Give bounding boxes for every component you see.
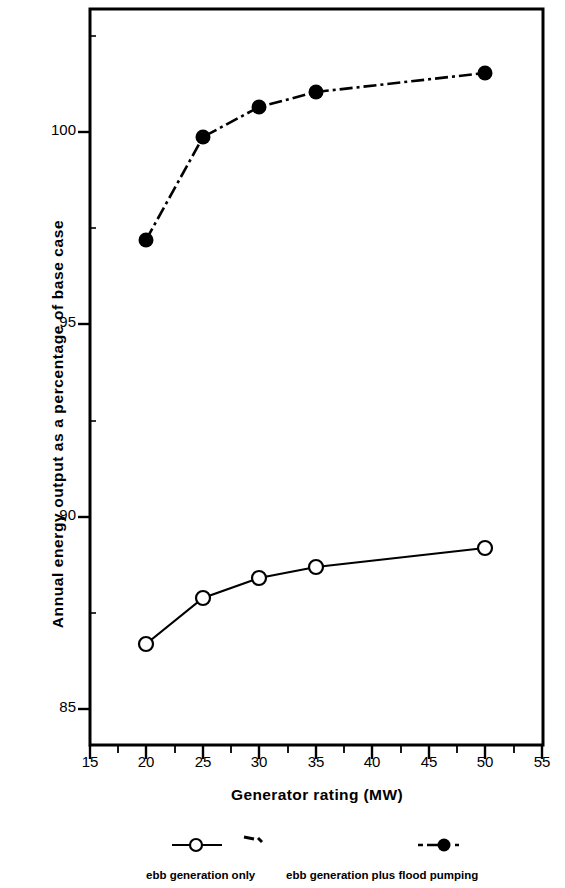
data-point-marker	[139, 233, 154, 248]
data-point-marker	[196, 591, 210, 605]
data-point-marker	[309, 85, 324, 100]
legend-swatch-ebb-generation-plus-flood-pumping	[418, 839, 470, 852]
legend-stray-dash	[244, 837, 254, 839]
data-point-marker	[196, 130, 211, 145]
y-axis-major-ticks	[78, 132, 90, 709]
legend-marker-filled-circle	[438, 839, 451, 852]
data-point-marker	[252, 100, 267, 115]
plot-canvas	[0, 0, 565, 888]
data-point-marker	[139, 637, 153, 651]
series-ebb-generation-only	[139, 541, 492, 651]
data-point-marker	[309, 560, 323, 574]
data-point-marker	[478, 541, 492, 555]
legend-stray-dash-2	[258, 838, 262, 842]
chart-figure: Annual energy output as a percentage of …	[0, 0, 565, 888]
series-ebb-generation-plus-flood-pumping	[139, 66, 493, 248]
data-point-marker	[478, 66, 493, 81]
x-axis-major-ticks	[90, 745, 542, 759]
legend-swatch-ebb-generation-only	[172, 837, 262, 851]
data-point-marker	[252, 571, 266, 585]
legend-marker-open-circle	[190, 839, 202, 851]
